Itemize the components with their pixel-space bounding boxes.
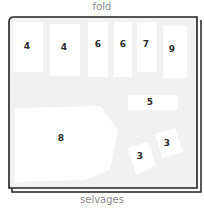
selvages-label: selvages [0, 194, 204, 205]
piece-6a [88, 22, 108, 77]
piece-label: 4 [61, 42, 67, 52]
piece-label: 5 [147, 97, 153, 107]
fabric-layout [0, 0, 204, 209]
piece-label: 3 [164, 138, 170, 148]
piece-6b [114, 22, 132, 77]
piece-label: 6 [95, 39, 101, 49]
piece-label: 6 [120, 39, 126, 49]
piece-label: 8 [58, 133, 64, 143]
piece-label: 4 [24, 41, 30, 51]
piece-8 [15, 106, 118, 182]
piece-label: 3 [137, 151, 143, 161]
piece-label: 7 [143, 39, 149, 49]
piece-label: 9 [169, 44, 175, 54]
